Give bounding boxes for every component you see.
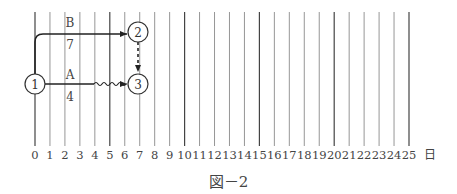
tick-label-12: 12: [207, 148, 222, 162]
tick-label-6: 6: [121, 148, 128, 162]
tick-label-17: 17: [282, 148, 297, 162]
tick-label-3: 3: [76, 148, 83, 162]
tick-label-15: 15: [252, 148, 267, 162]
tick-label-25: 25: [402, 148, 417, 162]
tick-label-4: 4: [91, 148, 98, 162]
day-tick-labels: 0123456789101112131415161718192021222324…: [31, 148, 416, 162]
tick-label-13: 13: [222, 148, 237, 162]
tick-label-19: 19: [312, 148, 327, 162]
axis-unit-label: 日: [424, 148, 436, 162]
node-1: 1: [25, 74, 45, 94]
node-3: 3: [128, 74, 148, 94]
svg-text:2: 2: [134, 26, 142, 40]
activity-b-arrow: [35, 34, 127, 74]
tick-label-1: 1: [46, 148, 53, 162]
tick-label-22: 22: [357, 148, 372, 162]
tick-label-7: 7: [136, 148, 143, 162]
node-2: 2: [128, 22, 148, 42]
activity-a-duration: 4: [66, 90, 74, 104]
tick-label-9: 9: [166, 148, 173, 162]
tick-label-20: 20: [327, 148, 342, 162]
tick-label-8: 8: [151, 148, 158, 162]
tick-label-18: 18: [297, 148, 312, 162]
network-diagram: 0123456789101112131415161718192021222324…: [0, 0, 457, 194]
activity-b-duration: 7: [66, 38, 74, 52]
figure-caption: 図－2: [0, 170, 457, 191]
tick-label-16: 16: [267, 148, 282, 162]
tick-label-14: 14: [237, 148, 252, 162]
svg-text:1: 1: [31, 78, 39, 92]
tick-label-11: 11: [192, 148, 207, 162]
tick-label-10: 10: [177, 148, 192, 162]
activity-b-name: B: [66, 16, 75, 30]
day-grid-lines: [35, 12, 409, 146]
tick-label-5: 5: [106, 148, 113, 162]
tick-label-0: 0: [31, 148, 38, 162]
activity-a-name: A: [65, 68, 75, 82]
tick-label-21: 21: [342, 148, 357, 162]
svg-text:3: 3: [134, 78, 142, 92]
tick-label-2: 2: [61, 148, 68, 162]
tick-label-24: 24: [387, 148, 402, 162]
float-wavy-line: [94, 83, 127, 86]
tick-label-23: 23: [372, 148, 387, 162]
